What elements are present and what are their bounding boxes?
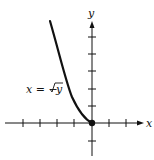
curve-x-equals-neg-sqrt-y xyxy=(50,21,92,123)
x-axis-arrow-icon xyxy=(137,121,144,126)
equation-label: x = − y xyxy=(26,83,63,96)
equation-radicand: y xyxy=(55,83,63,96)
y-axis-label: y xyxy=(87,7,95,20)
y-axis-arrow-icon xyxy=(90,21,95,28)
x-axis-label: x xyxy=(146,117,153,130)
graph: y x x = − y xyxy=(0,0,154,160)
origin-point xyxy=(89,120,95,126)
